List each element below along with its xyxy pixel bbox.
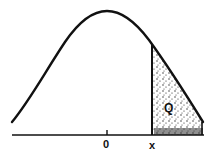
cutoff-label: x bbox=[149, 140, 155, 151]
mean-label: 0 bbox=[103, 139, 109, 150]
bell-curve-diagram bbox=[0, 0, 215, 153]
tail-bottom-shade bbox=[154, 128, 203, 135]
shaded-tail-area bbox=[152, 44, 203, 135]
area-label: Q bbox=[164, 103, 173, 114]
